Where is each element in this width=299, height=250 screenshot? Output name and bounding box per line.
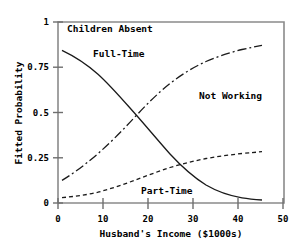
y-tick-label-025: 0.25 <box>27 153 49 163</box>
x-tick-label-0: 0 <box>55 214 60 224</box>
x-tick-label-40: 40 <box>233 214 244 224</box>
y-axis-title: Fitted Probability <box>13 61 24 164</box>
chart-figure: 1 0.75 0.5 0.25 0 0 10 20 30 40 50 Husba… <box>0 0 299 250</box>
fitted-probability-line-chart: 1 0.75 0.5 0.25 0 0 10 20 30 40 50 Husba… <box>0 0 299 250</box>
series-line-not-working <box>62 45 262 180</box>
y-tick-label-05: 0.5 <box>33 108 49 118</box>
series-line-full-time <box>62 50 262 200</box>
y-tick-label-0: 0 <box>44 198 49 208</box>
y-tick-label-1: 1 <box>44 17 49 27</box>
x-axis-title: Husband's Income ($1000s) <box>100 228 243 239</box>
y-tick-label-075: 0.75 <box>27 62 49 72</box>
series-label-part-time: Part-Time <box>141 185 193 196</box>
x-tick-label-50: 50 <box>278 214 289 224</box>
series-label-full-time: Full-Time <box>93 48 145 59</box>
x-tick-label-30: 30 <box>188 214 199 224</box>
plot-frame <box>58 22 284 203</box>
x-tick-label-10: 10 <box>98 214 109 224</box>
children-absent-annotation: Children Absent <box>67 23 153 34</box>
x-tick-label-20: 20 <box>143 214 154 224</box>
series-label-not-working: Not Working <box>199 90 262 101</box>
x-tick-labels: 0 10 20 30 40 50 <box>55 214 288 224</box>
y-tick-labels: 1 0.75 0.5 0.25 0 <box>27 17 49 208</box>
